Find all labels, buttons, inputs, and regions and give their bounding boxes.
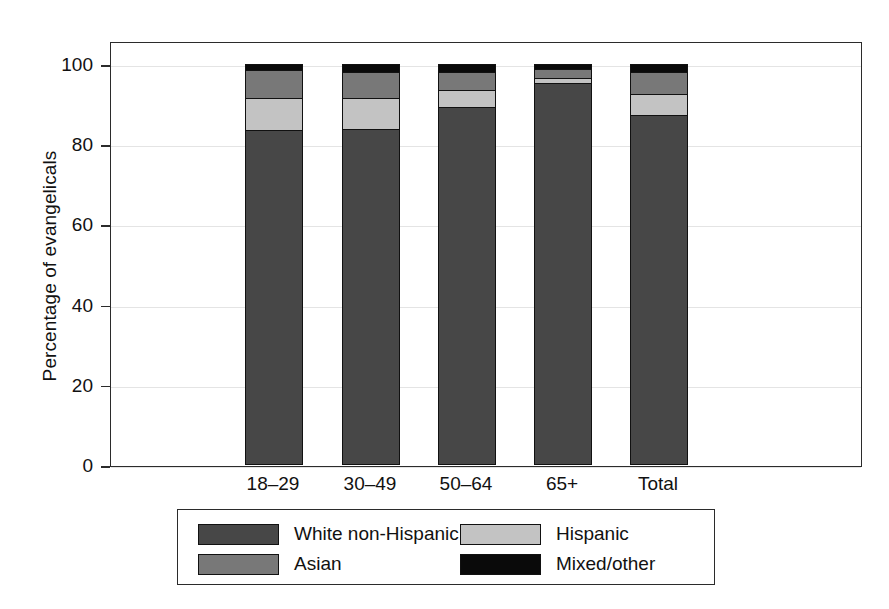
y-tick-mark-40 xyxy=(101,306,110,308)
bar-segment-white-non-hispanic xyxy=(534,83,592,465)
legend-swatch-white-non-hispanic xyxy=(198,524,279,545)
bar-4 xyxy=(534,41,592,466)
legend-label-white-non-hispanic: White non-Hispanic xyxy=(294,521,459,547)
chart-figure: Percentage of evangelicals 020406080100 … xyxy=(0,0,889,609)
y-tick-mark-100 xyxy=(101,65,110,67)
bar-segment-hispanic xyxy=(438,90,496,107)
plot-area xyxy=(110,42,862,467)
bar-5 xyxy=(630,41,688,466)
bar-segment-asian xyxy=(342,72,400,98)
y-tick-label-40: 40 xyxy=(31,296,93,315)
gridline-0 xyxy=(111,467,861,468)
y-tick-mark-80 xyxy=(101,145,110,147)
bar-segment-white-non-hispanic xyxy=(630,115,688,465)
bar-2 xyxy=(342,41,400,466)
bar-3 xyxy=(438,41,496,466)
legend-label-asian: Asian xyxy=(294,551,342,577)
bar-1 xyxy=(245,41,303,466)
chart-legend: White non-HispanicHispanicAsianMixed/oth… xyxy=(177,509,715,585)
bar-segment-hispanic xyxy=(534,78,592,83)
bar-segment-hispanic xyxy=(630,94,688,116)
bar-segment-hispanic xyxy=(245,98,303,130)
legend-label-mixed-other: Mixed/other xyxy=(556,551,655,577)
bar-segment-mixed-other xyxy=(534,64,592,69)
y-tick-label-100: 100 xyxy=(31,55,93,74)
bar-segment-mixed-other xyxy=(630,64,688,72)
bar-segment-asian xyxy=(438,72,496,90)
y-tick-label-60: 60 xyxy=(31,215,93,234)
y-tick-mark-20 xyxy=(101,386,110,388)
bar-segment-mixed-other xyxy=(342,64,400,72)
bar-segment-mixed-other xyxy=(245,64,303,70)
y-tick-mark-0 xyxy=(101,466,110,468)
legend-swatch-asian xyxy=(198,554,279,575)
plot-inner xyxy=(111,43,861,466)
bar-segment-white-non-hispanic xyxy=(245,130,303,465)
y-tick-label-20: 20 xyxy=(31,376,93,395)
bar-segment-hispanic xyxy=(342,98,400,129)
bar-segment-asian xyxy=(245,70,303,98)
legend-swatch-mixed-other xyxy=(460,554,541,575)
y-tick-mark-60 xyxy=(101,225,110,227)
bar-segment-asian xyxy=(630,72,688,94)
x-tick-label-5: Total xyxy=(598,474,718,493)
y-tick-label-80: 80 xyxy=(31,135,93,154)
bar-segment-white-non-hispanic xyxy=(342,129,400,465)
y-axis-title: Percentage of evangelicals xyxy=(39,116,61,416)
y-tick-label-0: 0 xyxy=(31,456,93,475)
legend-swatch-hispanic xyxy=(460,524,541,545)
bar-segment-asian xyxy=(534,69,592,77)
bar-segment-white-non-hispanic xyxy=(438,107,496,465)
bar-segment-mixed-other xyxy=(438,64,496,72)
legend-label-hispanic: Hispanic xyxy=(556,521,629,547)
